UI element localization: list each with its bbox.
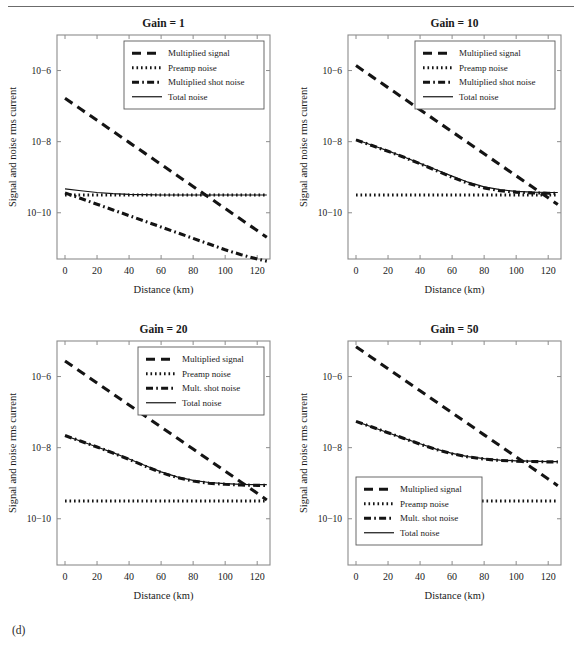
x-tick-label: 100 (218, 265, 233, 276)
y-tick-label: 10−10 (318, 208, 343, 218)
legend: Multiplied signalPreamp noiseMultiplied … (124, 41, 264, 109)
legend-label: Preamp noise (459, 63, 508, 73)
y-tick-label: 10−8 (322, 137, 342, 147)
x-tick-label: 60 (156, 571, 166, 582)
x-axis-label: Distance (km) (134, 590, 194, 602)
legend-label: Multiplied shot noise (459, 77, 536, 87)
y-tick-label: 10−8 (31, 137, 51, 147)
subplot-title: Gain = 10 (430, 17, 478, 29)
legend-label: Mult. shot noise (400, 513, 458, 523)
x-tick-label: 60 (156, 265, 166, 276)
subplot-title: Gain = 50 (430, 323, 478, 335)
x-tick-label: 100 (218, 571, 233, 582)
y-tick-label: 10−10 (27, 208, 52, 218)
y-tick-label: 10−10 (27, 514, 52, 524)
y-tick-label: 10−6 (31, 372, 51, 382)
legend-label: Total noise (400, 528, 440, 538)
x-tick-label: 120 (250, 571, 265, 582)
x-axis-label: Distance (km) (134, 284, 194, 296)
x-tick-label: 80 (188, 571, 198, 582)
legend-label: Total noise (182, 398, 222, 408)
x-tick-label: 20 (383, 571, 393, 582)
series-line-total-noise (356, 140, 558, 193)
series-line-total-noise (65, 436, 267, 485)
legend-label: Multiplied signal (459, 48, 521, 58)
x-tick-label: 40 (415, 571, 425, 582)
series-line-multiplied-signal (65, 98, 267, 237)
x-tick-label: 60 (447, 265, 457, 276)
x-tick-label: 0 (63, 265, 68, 276)
series-line-multiplied-signal (356, 347, 558, 486)
x-tick-label: 20 (92, 265, 102, 276)
x-tick-label: 80 (479, 571, 489, 582)
subplot-gain-50: Gain = 50020406080100120Distance (km)10−… (291, 318, 581, 618)
legend-label: Preamp noise (182, 369, 231, 379)
series-line-mult-shot-noise (65, 436, 267, 486)
page-top-rule (8, 6, 574, 7)
legend-label: Total noise (459, 92, 499, 102)
x-tick-label: 40 (415, 265, 425, 276)
legend-label: Multiplied shot noise (168, 77, 245, 87)
subplot-gain-1: Gain = 1020406080100120Distance (km)10−6… (0, 12, 290, 312)
x-axis-label: Distance (km) (425, 590, 485, 602)
x-tick-label: 120 (250, 265, 265, 276)
x-tick-label: 80 (188, 265, 198, 276)
y-tick-label: 10−8 (322, 443, 342, 453)
series-line-mult-shot-noise (356, 140, 558, 193)
figure-subplot-grid: Gain = 1020406080100120Distance (km)10−6… (0, 12, 581, 612)
y-tick-label: 10−8 (31, 443, 51, 453)
legend-label: Preamp noise (168, 63, 217, 73)
legend-label: Multiplied signal (182, 354, 244, 364)
x-axis-label: Distance (km) (425, 284, 485, 296)
subplot-title: Gain = 20 (139, 323, 187, 335)
y-axis-label: Signal and noise rms current (7, 393, 18, 513)
legend-label: Mult. shot noise (182, 383, 240, 393)
series-line-mult-shot-noise (356, 421, 558, 462)
subplot-gain-20: Gain = 20020406080100120Distance (km)10−… (0, 318, 290, 618)
y-axis-label: Signal and noise rms current (298, 87, 309, 207)
y-tick-label: 10−6 (31, 66, 51, 76)
x-tick-label: 0 (354, 571, 359, 582)
x-tick-label: 60 (447, 571, 457, 582)
x-tick-label: 120 (541, 265, 556, 276)
x-tick-label: 120 (541, 571, 556, 582)
series-line-mult-shot-noise (65, 193, 267, 261)
legend: Multiplied signalPreamp noiseMult. shot … (138, 347, 264, 415)
x-tick-label: 0 (63, 571, 68, 582)
y-tick-label: 10−6 (322, 66, 342, 76)
legend-label: Multiplied signal (168, 48, 230, 58)
x-tick-label: 20 (92, 571, 102, 582)
legend-label: Multiplied signal (400, 484, 462, 494)
legend-label: Preamp noise (400, 499, 449, 509)
x-tick-label: 0 (354, 265, 359, 276)
y-axis-label: Signal and noise rms current (298, 393, 309, 513)
x-tick-label: 40 (124, 571, 134, 582)
x-tick-label: 40 (124, 265, 134, 276)
x-tick-label: 100 (509, 571, 524, 582)
legend-label: Total noise (168, 92, 208, 102)
y-tick-label: 10−6 (322, 372, 342, 382)
legend: Multiplied signalPreamp noiseMult. shot … (356, 477, 482, 545)
x-tick-label: 100 (509, 265, 524, 276)
figure-caption: (d) (12, 624, 25, 636)
y-tick-label: 10−10 (318, 514, 343, 524)
y-axis-label: Signal and noise rms current (7, 87, 18, 207)
x-tick-label: 20 (383, 265, 393, 276)
legend: Multiplied signalPreamp noiseMultiplied … (415, 41, 555, 109)
subplot-title: Gain = 1 (142, 17, 185, 29)
subplot-gain-10: Gain = 10020406080100120Distance (km)10−… (291, 12, 581, 312)
x-tick-label: 80 (479, 265, 489, 276)
